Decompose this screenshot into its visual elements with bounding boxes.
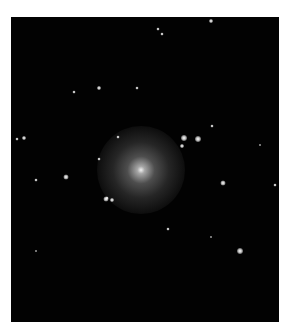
star	[161, 33, 164, 36]
star	[110, 198, 114, 202]
star	[136, 87, 139, 90]
star	[73, 91, 76, 94]
star	[210, 236, 212, 238]
star	[117, 136, 120, 139]
star	[16, 138, 19, 141]
star	[181, 135, 187, 141]
star	[35, 179, 38, 182]
galaxy-image	[11, 17, 279, 322]
star	[274, 184, 277, 187]
star	[22, 136, 26, 140]
star	[98, 158, 101, 161]
star	[195, 136, 201, 142]
star	[167, 228, 170, 231]
star	[237, 248, 243, 254]
star	[221, 181, 226, 186]
star	[35, 250, 37, 252]
star	[259, 144, 261, 146]
star	[104, 197, 109, 202]
star	[209, 19, 213, 23]
star	[64, 175, 69, 180]
star	[97, 86, 101, 90]
star	[180, 144, 184, 148]
star	[211, 125, 214, 128]
star	[157, 28, 160, 31]
